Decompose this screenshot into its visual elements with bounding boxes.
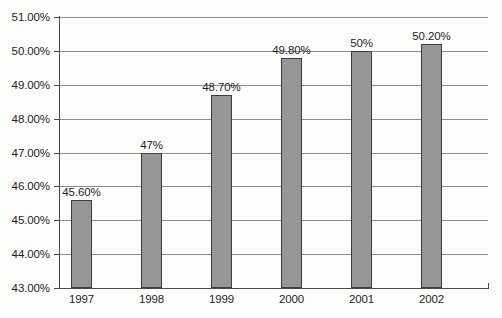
bar-value-label-2002: 50.20% <box>392 30 472 42</box>
y-axis-tick <box>54 17 60 18</box>
y-axis-label: 50.00% <box>12 45 50 57</box>
y-axis-tick <box>54 153 60 154</box>
x-axis-category-label-2000: 2000 <box>252 293 332 306</box>
x-axis-category-label-1999: 1999 <box>182 293 262 306</box>
y-axis-tick <box>54 119 60 120</box>
x-axis-end-tick <box>488 283 489 289</box>
bar-value-label-1998: 47% <box>112 139 192 151</box>
y-axis-label: 48.00% <box>12 113 50 125</box>
y-axis-tick <box>54 85 60 86</box>
y-axis-label: 51.00% <box>12 11 50 23</box>
bar-value-label-1999: 48.70% <box>182 81 262 93</box>
bar-value-label-1997: 45.60% <box>42 186 122 198</box>
bar-2000 <box>281 58 302 288</box>
bar-2001 <box>351 51 372 288</box>
x-axis-category-label-2002: 2002 <box>392 293 472 306</box>
y-axis-label: 44.00% <box>12 248 50 260</box>
bar-1997 <box>71 200 92 288</box>
x-axis-category-label-2001: 2001 <box>322 293 402 306</box>
y-axis-tick <box>54 288 60 289</box>
bar-2002 <box>421 44 442 288</box>
y-axis-label: 49.00% <box>12 79 50 91</box>
x-axis-line <box>59 288 489 289</box>
bar-1998 <box>141 153 162 289</box>
y-axis-tick <box>54 51 60 52</box>
x-axis-category-label-1997: 1997 <box>42 293 122 306</box>
y-axis-label: 45.00% <box>12 214 50 226</box>
y-axis-label: 47.00% <box>12 147 50 159</box>
y-axis-tick <box>54 220 60 221</box>
bar-value-label-2000: 49.80% <box>252 44 332 56</box>
y-axis-tick <box>54 254 60 255</box>
bar-value-label-2001: 50% <box>322 37 402 49</box>
bar-1999 <box>211 95 232 288</box>
gridline <box>60 17 488 18</box>
x-axis-category-label-1998: 1998 <box>112 293 192 306</box>
bar-chart: 51.00% 50.00% 49.00% 48.00% 47.00% 46.00… <box>0 0 502 318</box>
